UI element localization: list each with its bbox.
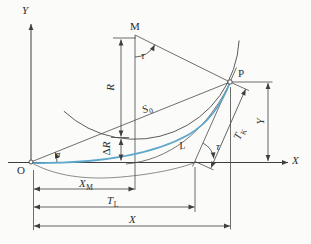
sigma-angle-label: σ <box>55 150 60 161</box>
origin-point-marker <box>29 160 33 164</box>
curve-end-label: P <box>238 68 244 79</box>
circular-arc <box>64 41 239 140</box>
y-axis-label: Y <box>22 5 28 16</box>
p-point-marker <box>228 80 232 84</box>
tau-angle-arc-at-T <box>203 143 214 158</box>
circle-center-label: M <box>130 21 140 32</box>
tl-dimension-label: TL <box>107 195 118 206</box>
tau-angle-label-at-T: τ <box>216 142 220 153</box>
tl-sub: L <box>114 201 119 209</box>
x-dimension-label: X <box>129 214 136 225</box>
tl-main: T <box>107 194 113 206</box>
x-axis-label: X <box>292 155 299 166</box>
delta-r-label: ΔR <box>101 142 112 156</box>
y-dimension-label: Y <box>255 118 266 124</box>
tau-angle-label-at-M: τ <box>141 51 145 62</box>
tk-extension-from-P <box>230 82 249 91</box>
xm-main: X <box>79 177 86 189</box>
clothoid-diagram: Y X O M P τ τ σ R ΔR S0 L XM TL X Y TK <box>0 0 311 244</box>
origin-label: O <box>17 165 25 176</box>
auxiliary-arc <box>31 163 195 179</box>
clothoid-curve <box>31 83 230 164</box>
xm-sub: M <box>86 184 93 192</box>
delta-r-delta: Δ <box>100 148 112 155</box>
xm-dimension-label: XM <box>79 178 93 189</box>
center-to-P-line <box>135 35 230 82</box>
delta-r-r: R <box>100 142 112 149</box>
radius-label: R <box>105 84 116 91</box>
